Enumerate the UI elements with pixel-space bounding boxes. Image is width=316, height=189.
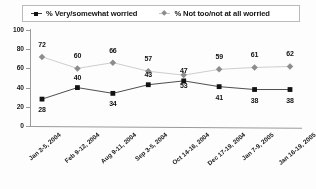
data-point-label: 53	[174, 82, 194, 89]
data-point-label: 40	[67, 74, 87, 81]
data-point-label: 72	[32, 41, 52, 48]
data-point-label: 61	[245, 51, 265, 58]
data-point-label: 60	[67, 52, 87, 59]
data-point-marker	[146, 82, 151, 87]
data-point-marker	[40, 97, 45, 102]
data-point-label: 34	[103, 100, 123, 107]
data-point-marker	[75, 85, 80, 90]
data-point-marker	[288, 87, 293, 92]
data-point-marker	[251, 64, 258, 71]
data-point-marker	[287, 63, 294, 70]
data-point-label: 57	[138, 55, 158, 62]
data-point-marker	[39, 54, 46, 61]
data-point-marker	[110, 91, 115, 96]
data-point-marker	[216, 66, 223, 73]
data-point-label: 41	[209, 94, 229, 101]
data-point-label: 62	[280, 50, 300, 57]
data-point-label: 47	[174, 67, 194, 74]
data-point-marker	[74, 65, 81, 72]
data-point-marker	[217, 84, 222, 89]
data-point-label: 59	[209, 53, 229, 60]
data-point-label: 38	[245, 97, 265, 104]
data-point-marker	[252, 87, 257, 92]
data-point-label: 28	[32, 106, 52, 113]
data-point-marker	[110, 59, 117, 66]
data-point-label: 43	[138, 71, 158, 78]
data-point-label: 38	[280, 97, 300, 104]
series-lines	[0, 0, 316, 189]
data-point-label: 66	[103, 47, 123, 54]
chart-container: % Very/somewhat worried % Not too/not at…	[0, 0, 316, 189]
